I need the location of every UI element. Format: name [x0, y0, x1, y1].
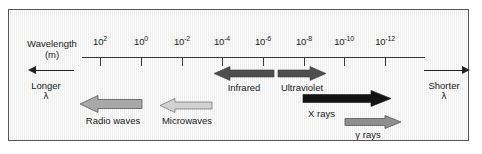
- tick-mantissa-0: 10: [93, 36, 103, 47]
- axis-tick-3: [222, 58, 223, 66]
- axis-tick-label-5: 10-8: [296, 36, 312, 47]
- longer-wavelength-arrow-icon: [28, 66, 74, 75]
- arrow-shaft: [35, 70, 74, 71]
- shorter-wavelength-label: Shorter λ: [416, 80, 472, 102]
- axis-tick-label-6: 10-10: [334, 36, 354, 47]
- shorter-wavelength-arrow-icon: [424, 66, 470, 75]
- tick-exponent-0: 2: [103, 35, 107, 42]
- band-gamma-rays-caption: γ rays: [340, 129, 396, 141]
- arrow-head: [462, 66, 470, 74]
- band-microwaves-caption: Microwaves: [156, 115, 218, 127]
- band-infrared: [214, 66, 274, 81]
- tick-mantissa-5: 10: [296, 36, 306, 47]
- axis-tick-5: [304, 58, 305, 66]
- tick-exponent-2: -2: [184, 35, 190, 42]
- band-x-rays: [303, 90, 391, 107]
- tick-exponent-1: 0: [144, 35, 148, 42]
- tick-mantissa-7: 10: [375, 36, 385, 47]
- shorter-text: Shorter: [428, 80, 459, 91]
- axis-title-text: Wavelength: [27, 38, 77, 49]
- band-ultraviolet: [278, 66, 326, 81]
- arrow-head: [28, 66, 36, 74]
- axis-tick-label-1: 100: [134, 36, 148, 47]
- infrared-arrow-icon: [214, 66, 274, 81]
- arrow-shaft: [424, 70, 463, 71]
- axis-tick-label-7: 10-12: [375, 36, 395, 47]
- ultraviolet-arrow-icon: [278, 66, 326, 81]
- band-gamma-rays: [345, 115, 401, 129]
- axis-tick-1: [141, 58, 142, 66]
- tick-exponent-5: -8: [306, 35, 312, 42]
- lambda-symbol-left: λ: [18, 91, 74, 102]
- tick-exponent-4: -6: [265, 35, 271, 42]
- tick-mantissa-3: 10: [214, 36, 224, 47]
- axis-unit-text: (m): [22, 49, 82, 60]
- tick-mantissa-4: 10: [255, 36, 265, 47]
- microwaves-arrow-icon: [160, 98, 212, 113]
- lambda-symbol-right: λ: [416, 91, 472, 102]
- x-rays-arrow-icon: [303, 90, 391, 107]
- gamma-rays-arrow-icon: [345, 115, 401, 129]
- radio-waves-label: Radio waves: [78, 115, 148, 126]
- axis-title: Wavelength (m): [22, 38, 82, 60]
- tick-exponent-3: -4: [224, 35, 230, 42]
- tick-exponent-6: -10: [344, 35, 354, 42]
- axis-tick-label-2: 10-2: [174, 36, 190, 47]
- axis-tick-2: [182, 58, 183, 66]
- em-spectrum-figure: Wavelength (m) 102 100 10-2 10-4 10-6 10…: [0, 0, 482, 154]
- microwaves-label: Microwaves: [156, 115, 218, 126]
- wavelength-axis-line: [82, 57, 425, 58]
- axis-tick-0: [100, 58, 101, 66]
- axis-tick-label-4: 10-6: [255, 36, 271, 47]
- longer-wavelength-label: Longer λ: [18, 80, 74, 102]
- axis-tick-4: [263, 58, 264, 66]
- radio-waves-arrow-icon: [80, 95, 142, 113]
- axis-tick-label-0: 102: [93, 36, 107, 47]
- tick-mantissa-2: 10: [174, 36, 184, 47]
- axis-tick-6: [344, 58, 345, 66]
- gamma-rays-label: γ rays: [340, 129, 396, 140]
- axis-tick-7: [385, 58, 386, 66]
- tick-exponent-7: -12: [385, 35, 395, 42]
- band-radio-waves-caption: Radio waves: [78, 115, 148, 127]
- band-microwaves: [160, 98, 212, 113]
- band-radio-waves: [80, 95, 142, 113]
- tick-mantissa-6: 10: [334, 36, 344, 47]
- band-infrared-caption: Infrared: [214, 82, 274, 94]
- longer-text: Longer: [31, 80, 61, 91]
- axis-tick-label-3: 10-4: [214, 36, 230, 47]
- tick-mantissa-1: 10: [134, 36, 144, 47]
- infrared-label: Infrared: [214, 82, 274, 93]
